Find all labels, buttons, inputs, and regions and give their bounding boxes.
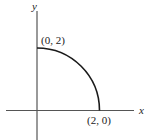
x-axis-label: x: [138, 104, 144, 116]
y-axis-label: y: [31, 0, 37, 12]
quarter-circle-diagram: y x (0, 2) (2, 0): [0, 0, 145, 140]
quarter-circle-arc: [37, 48, 100, 111]
start-point-label: (0, 2): [41, 34, 65, 47]
end-point-label: (2, 0): [87, 114, 111, 127]
